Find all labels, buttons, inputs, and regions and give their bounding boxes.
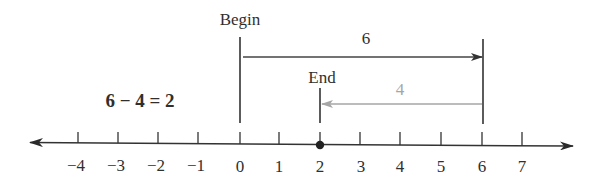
number-line-diagram: 6 − 4 = 2 Begin 6 End 4 −4 −3 −2 −1 [0, 0, 606, 184]
tick-labels: −4 −3 −2 −1 0 1 2 3 4 5 6 7 [67, 156, 527, 176]
move-6-label: 6 [362, 29, 371, 48]
tick-label: 0 [236, 157, 245, 176]
end-label: End [308, 68, 336, 87]
tick-label: 5 [437, 157, 446, 176]
tick-label: 3 [357, 157, 366, 176]
tick-label: −1 [187, 156, 205, 175]
move-4-label: 4 [396, 80, 405, 99]
tick-label: 4 [396, 157, 405, 176]
tick-label: −3 [107, 156, 125, 175]
tick-label: 2 [316, 157, 325, 176]
begin-label: Begin [220, 10, 261, 29]
tick-label: −4 [67, 156, 86, 175]
tick-label: 6 [478, 157, 487, 176]
number-line-axis [30, 143, 573, 147]
result-point [316, 141, 324, 149]
tick-label: 7 [518, 157, 527, 176]
equation-label: 6 − 4 = 2 [105, 90, 174, 111]
tick-label: −2 [147, 156, 165, 175]
tick-label: 1 [275, 157, 284, 176]
